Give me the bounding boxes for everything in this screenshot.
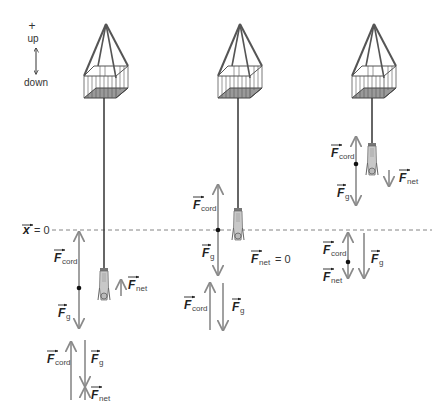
svg-text:F: F — [193, 198, 201, 212]
center-of-mass-dot — [216, 228, 221, 233]
center-of-mass-dot — [354, 162, 359, 167]
panel-right: F cord F g F net F cord F net — [323, 24, 419, 285]
svg-text:F: F — [323, 243, 331, 257]
f-net-label: F net = 0 — [251, 251, 291, 267]
bungee-diagram: + up down x = 0 F cord F g — [0, 0, 432, 416]
vector-origin-dot — [346, 260, 351, 265]
panel-left: F cord F g F net F cord F g — [47, 24, 148, 403]
svg-text:cord: cord — [331, 249, 347, 258]
f-g-vector-label: F g — [91, 351, 103, 367]
svg-text:F: F — [232, 300, 240, 314]
jumper-icon — [232, 208, 244, 240]
svg-text:F: F — [47, 352, 55, 366]
f-net-vector-label: F net — [323, 269, 343, 285]
svg-text:F: F — [91, 352, 99, 366]
f-g-label: F g — [337, 185, 349, 201]
svg-text:net: net — [259, 258, 271, 267]
f-cord-vector-label: F cord — [184, 297, 208, 313]
down-label: down — [24, 77, 48, 88]
svg-text:F: F — [91, 388, 99, 402]
panel-middle: F cord F g F net = 0 F cord F g — [184, 24, 291, 330]
f-cord-vector-label: F cord — [47, 351, 71, 367]
svg-text:cord: cord — [201, 204, 217, 213]
center-of-mass-dot — [77, 286, 82, 291]
f-cord-label: F cord — [331, 145, 355, 161]
svg-text:F: F — [371, 252, 379, 266]
svg-text:F: F — [54, 251, 62, 265]
svg-text:F: F — [337, 186, 345, 200]
basket-icon — [84, 24, 128, 98]
svg-text:g: g — [99, 358, 103, 367]
svg-text:g: g — [66, 312, 70, 321]
svg-text:net: net — [99, 394, 111, 403]
x-zero-label: x = 0 — [22, 223, 50, 237]
basket-icon — [218, 24, 262, 98]
direction-legend: + up down — [24, 19, 48, 88]
f-g-label: F g — [58, 305, 70, 321]
f-net-label: F net — [399, 170, 419, 186]
svg-text:cord: cord — [192, 304, 208, 313]
jumper-icon — [366, 143, 378, 175]
svg-text:F: F — [58, 306, 66, 320]
svg-text:F: F — [399, 171, 407, 185]
f-g-vector-label: F g — [371, 251, 383, 267]
f-net-vector-label: F net — [91, 387, 111, 403]
svg-text:net: net — [407, 177, 419, 186]
svg-text:F: F — [251, 252, 259, 266]
svg-text:g: g — [379, 258, 383, 267]
svg-text:x: x — [22, 223, 31, 237]
svg-text:net: net — [331, 276, 343, 285]
up-label: up — [27, 33, 39, 44]
svg-text:net: net — [136, 284, 148, 293]
svg-text:F: F — [184, 298, 192, 312]
svg-text:cord: cord — [55, 358, 71, 367]
jumper-icon — [98, 268, 110, 300]
svg-text:cord: cord — [62, 257, 78, 266]
f-cord-vector-label: F cord — [323, 242, 347, 258]
f-cord-label: F cord — [54, 250, 78, 266]
f-g-vector-label: F g — [232, 299, 244, 315]
svg-text:F: F — [323, 270, 331, 284]
svg-text:cord: cord — [339, 152, 355, 161]
svg-text:= 0: = 0 — [275, 253, 291, 265]
svg-text:g: g — [345, 192, 349, 201]
basket-icon — [352, 24, 396, 98]
svg-text:= 0: = 0 — [34, 224, 50, 236]
f-cord-label: F cord — [193, 197, 217, 213]
svg-text:F: F — [331, 146, 339, 160]
svg-text:g: g — [240, 306, 244, 315]
svg-text:F: F — [202, 246, 210, 260]
f-g-label: F g — [202, 245, 214, 261]
plus-sign: + — [28, 19, 35, 33]
f-net-label: F net — [128, 277, 148, 293]
svg-text:F: F — [128, 278, 136, 292]
svg-text:g: g — [210, 252, 214, 261]
